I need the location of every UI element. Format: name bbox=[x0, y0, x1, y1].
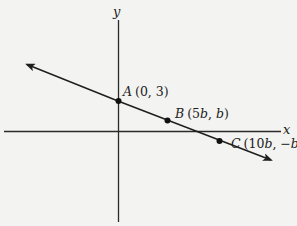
point-c bbox=[217, 138, 223, 144]
point-a-coords: (0, 3) bbox=[135, 84, 169, 99]
diagram-canvas: y x A(0, 3) B(5b, b) C(10b, −b) bbox=[0, 0, 297, 226]
point-b-label: B(5b, b) bbox=[174, 106, 229, 121]
point-a bbox=[116, 98, 122, 104]
line-arrow bbox=[27, 65, 118, 102]
point-c-name: C bbox=[231, 136, 241, 151]
point-b-name: B bbox=[174, 106, 184, 121]
coordinate-diagram: y x A(0, 3) B(5b, b) C(10b, −b) bbox=[0, 0, 297, 226]
point-b-text: b bbox=[216, 106, 224, 121]
point-c-text: b bbox=[264, 136, 272, 151]
y-axis-label: y bbox=[112, 4, 121, 19]
point-b-text: (5 bbox=[187, 106, 200, 121]
point-b-text: ) bbox=[224, 106, 229, 121]
point-a-name: A bbox=[122, 84, 132, 99]
x-axis-label: x bbox=[283, 122, 291, 137]
point-c-text: b bbox=[291, 136, 297, 151]
point-b-text: , bbox=[208, 106, 216, 121]
point-a-label: A(0, 3) bbox=[122, 84, 169, 99]
point-c-text: (10 bbox=[244, 136, 265, 151]
point-c-text: , − bbox=[272, 136, 290, 151]
point-b bbox=[165, 118, 171, 124]
point-b-text: b bbox=[200, 106, 208, 121]
